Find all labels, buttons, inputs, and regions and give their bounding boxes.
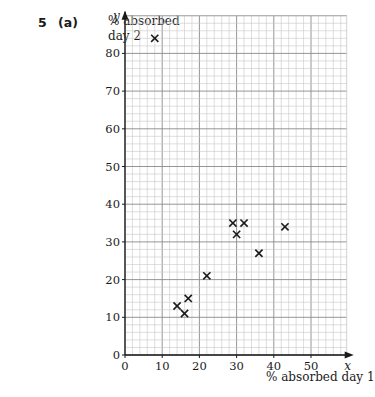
x-axis-arrow-icon xyxy=(345,352,354,359)
data-point-x-marker-icon xyxy=(229,219,236,226)
y-axis-arrow-icon xyxy=(122,11,129,20)
x-tick-label: 30 xyxy=(229,359,244,373)
y-tick-label: 50 xyxy=(105,160,120,174)
axes: yx xyxy=(112,9,354,373)
grid-lines xyxy=(125,16,347,355)
y-tick-label: 40 xyxy=(105,197,120,211)
y-tick-label: 20 xyxy=(105,273,120,287)
x-axis-letter: x xyxy=(344,359,351,373)
tick-labels: 0102030405001020304050607080 xyxy=(105,46,318,373)
x-tick-label: 0 xyxy=(121,359,128,373)
y-tick-label: 70 xyxy=(105,84,120,98)
y-tick-label: 0 xyxy=(113,348,120,362)
x-tick-label: 10 xyxy=(155,359,170,373)
x-tick-label: 50 xyxy=(304,359,319,373)
y-axis-letter: y xyxy=(112,9,120,23)
y-tick-label: 30 xyxy=(105,235,120,249)
x-tick-label: 20 xyxy=(192,359,207,373)
y-tick-label: 10 xyxy=(105,310,120,324)
data-points xyxy=(151,35,288,317)
x-tick-label: 40 xyxy=(266,359,281,373)
y-tick-label: 80 xyxy=(105,46,120,60)
data-point-x-marker-icon xyxy=(185,295,192,302)
y-tick-label: 60 xyxy=(105,122,120,136)
